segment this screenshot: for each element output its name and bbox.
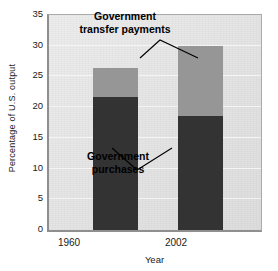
x-tick-1960: 1960 [34,237,104,248]
x-axis-title: Year [47,254,262,265]
bar-2002 [178,46,223,230]
y-axis-ticks: 35 30 25 20 15 10 5 0 [18,0,43,271]
y-tick-35: 35 [21,9,43,19]
annotation-transfers-line1: Government [60,10,190,23]
y-tick-15: 15 [21,132,43,142]
y-tick-20: 20 [21,101,43,111]
gridline-30 [49,45,261,46]
bar-1960-transfers [93,68,138,96]
annotation-transfers-line2: transfer payments [60,23,190,36]
gridline-15 [49,137,261,138]
bar-2002-transfers [178,46,223,117]
y-tick-0: 0 [21,224,43,234]
annotation-purchases-line2: purchases [58,163,178,176]
bar-2002-purchases [178,116,223,230]
y-tick-30: 30 [21,40,43,50]
gridline-25 [49,75,261,76]
x-tick-2002: 2002 [141,237,211,248]
y-axis-title: Percentage of U.S. output [7,23,17,213]
gridline-20 [49,106,261,107]
y-tick-25: 25 [21,70,43,80]
y-tick-10: 10 [21,163,43,173]
plot-area [47,14,262,232]
annotation-purchases: Government purchases [58,150,178,176]
annotation-transfers: Government transfer payments [60,10,190,36]
y-tick-5: 5 [21,193,43,203]
gridline-5 [49,198,261,199]
annotation-purchases-line1: Government [58,150,178,163]
chart-figure: Percentage of U.S. output 35 30 25 20 15… [0,0,278,271]
